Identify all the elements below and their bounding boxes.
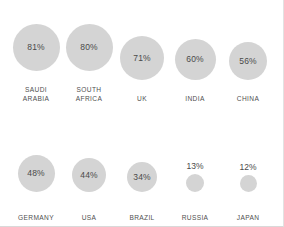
bubble-cell-south-africa[interactable]: 80% SOUTH AFRICA (63, 4, 115, 104)
bubble-row-1: 81% SAUDI ARABIA 80% SOUTH AFRICA 71% UK (0, 4, 284, 104)
bubble-zone: 44% (63, 134, 115, 192)
bubble-circle[interactable]: 48% (18, 155, 55, 192)
bubble-zone: 81% (10, 13, 62, 71)
bubble-zone: 12% (222, 134, 274, 192)
bubble-circle[interactable]: 12% (240, 175, 257, 192)
bubble-value-label: 80% (80, 43, 97, 52)
bubble-zone: 60% (169, 22, 221, 80)
bubble-cell-russia[interactable]: 13% RUSSIA (169, 116, 221, 223)
bubble-value-label: 13% (186, 162, 203, 171)
bubble-category-label: USA (82, 214, 97, 223)
bubble-category-label: UK (137, 95, 147, 104)
bubble-zone: 48% (10, 134, 62, 192)
bubble-zone: 34% (116, 134, 168, 192)
bubble-value-label: 34% (133, 173, 150, 182)
bubble-cell-japan[interactable]: 12% JAPAN (222, 116, 274, 223)
bubble-category-label: CHINA (237, 95, 259, 104)
bubble-category-label: BRAZIL (129, 214, 154, 223)
bubble-category-label: GERMANY (18, 214, 54, 223)
bubble-value-label: 71% (133, 54, 150, 63)
bubble-zone: 80% (63, 13, 115, 71)
bubble-category-label: RUSSIA (182, 214, 209, 223)
bubble-circle[interactable]: 34% (127, 162, 157, 192)
bubble-circle[interactable]: 71% (120, 36, 164, 80)
bubble-circle[interactable]: 13% (186, 174, 204, 192)
bubble-circle[interactable]: 80% (66, 24, 113, 71)
bubble-value-label: 56% (239, 57, 256, 66)
bubble-cell-germany[interactable]: 48% GERMANY (10, 116, 62, 223)
bubble-value-label: 48% (27, 169, 44, 178)
bubble-cell-saudi-arabia[interactable]: 81% SAUDI ARABIA (10, 4, 62, 104)
bubble-cell-china[interactable]: 56% CHINA (222, 4, 274, 104)
bubble-zone: 56% (222, 22, 274, 80)
bubble-circle[interactable]: 81% (13, 24, 60, 71)
bubble-category-label: SOUTH AFRICA (76, 86, 102, 104)
bubble-cell-india[interactable]: 60% INDIA (169, 4, 221, 104)
bubble-category-label: SAUDI ARABIA (23, 86, 49, 104)
bubble-category-label: JAPAN (237, 214, 260, 223)
bubble-category-label: INDIA (185, 95, 204, 104)
bubble-cell-uk[interactable]: 71% UK (116, 4, 168, 104)
bubble-circle[interactable]: 44% (72, 158, 106, 192)
bubble-cell-brazil[interactable]: 34% BRAZIL (116, 116, 168, 223)
bubble-circle[interactable]: 56% (229, 42, 267, 80)
bubble-value-label: 81% (27, 43, 44, 52)
bubble-zone: 13% (169, 134, 221, 192)
bubble-chart: 81% SAUDI ARABIA 80% SOUTH AFRICA 71% UK (0, 0, 284, 227)
bubble-circle[interactable]: 60% (175, 39, 216, 80)
bubble-value-label: 12% (239, 163, 256, 172)
bubble-value-label: 60% (186, 55, 203, 64)
bubble-cell-usa[interactable]: 44% USA (63, 116, 115, 223)
bubble-zone: 71% (116, 22, 168, 80)
bubble-row-2: 48% GERMANY 44% USA 34% BRAZIL (0, 116, 284, 223)
bubble-value-label: 44% (80, 171, 97, 180)
